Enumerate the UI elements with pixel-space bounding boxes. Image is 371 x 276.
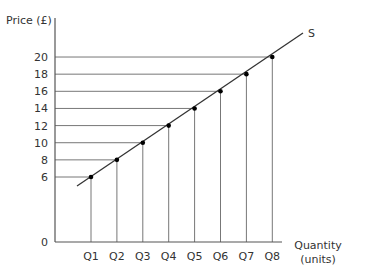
data-point xyxy=(244,72,249,77)
y-tick-label: 14 xyxy=(34,102,48,115)
x-tick-label: Q5 xyxy=(187,250,203,263)
y-tick-label: 16 xyxy=(34,85,48,98)
x-tick-label: Q4 xyxy=(161,250,177,263)
supply-curve-chart: S681012141618200Q1Q2Q3Q4Q5Q6Q7Q8Price (£… xyxy=(0,0,371,276)
y-tick-label: 20 xyxy=(34,51,48,64)
x-tick-label: Q3 xyxy=(135,250,151,263)
x-axis-title-line2: (units) xyxy=(300,253,336,266)
series-label: S xyxy=(308,27,315,40)
x-axis-title-line1: Quantity xyxy=(294,239,342,252)
x-tick-label: Q6 xyxy=(213,250,229,263)
data-point xyxy=(115,158,120,163)
y-tick-label: 8 xyxy=(41,154,48,167)
y-tick-label: 6 xyxy=(41,171,48,184)
x-tick-label: Q2 xyxy=(109,250,125,263)
x-tick-label: Q8 xyxy=(264,250,280,263)
data-point xyxy=(270,55,275,60)
y-tick-label: 18 xyxy=(34,68,48,81)
data-point xyxy=(89,175,94,180)
y-tick-label: 10 xyxy=(34,137,48,150)
data-point xyxy=(218,89,223,94)
x-tick-label: Q1 xyxy=(83,250,99,263)
data-point xyxy=(192,106,197,111)
data-point xyxy=(166,123,171,128)
y-axis-title: Price (£) xyxy=(6,14,52,27)
supply-line xyxy=(77,33,303,186)
x-tick-label: Q7 xyxy=(239,250,255,263)
data-point xyxy=(141,140,146,145)
origin-label: 0 xyxy=(41,236,48,249)
y-tick-label: 12 xyxy=(34,120,48,133)
